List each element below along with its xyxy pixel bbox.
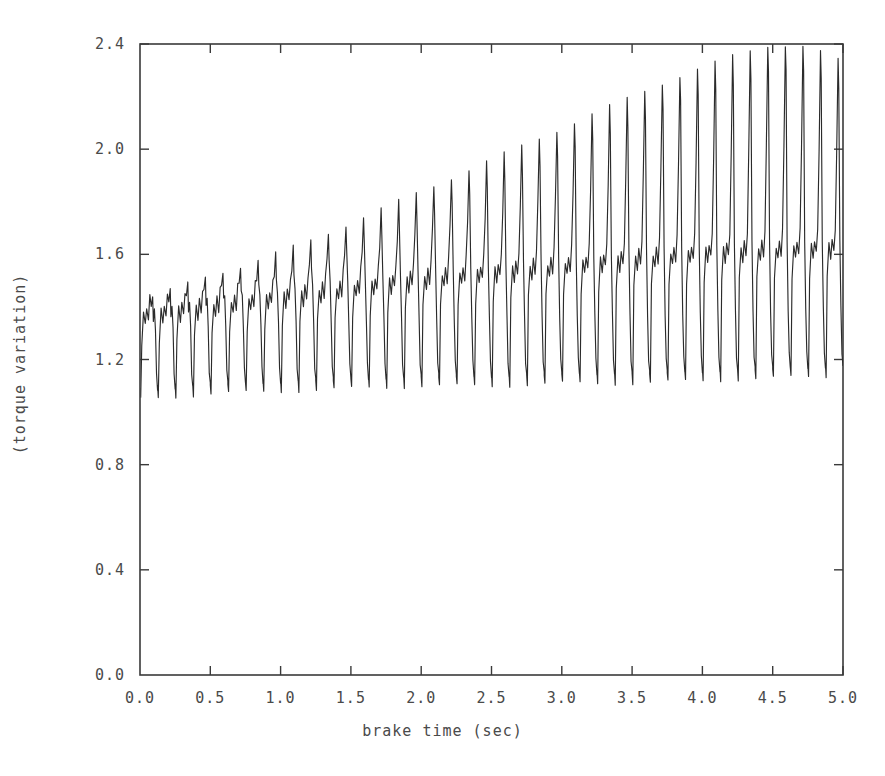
x-tick-label: 2.5 [476,689,506,707]
axis-ticks [140,44,843,675]
x-tick-label: 0.5 [195,689,225,707]
plot-frame [140,44,843,675]
plot-canvas [0,0,885,776]
y-tick-label: 2.4 [70,35,125,53]
chart-figure: 0.00.40.81.21.62.02.4 0.00.51.01.52.02.5… [0,0,885,776]
x-tick-label: 0.0 [125,689,155,707]
x-tick-label: 3.5 [617,689,647,707]
y-tick-label: 1.6 [70,245,125,263]
x-tick-label: 1.0 [266,689,296,707]
y-tick-label: 0.8 [70,456,125,474]
x-tick-label: 4.0 [687,689,717,707]
data-series-line [140,46,843,398]
x-tick-label: 3.0 [547,689,577,707]
x-tick-label: 5.0 [828,689,858,707]
y-tick-label: 0.0 [70,666,125,684]
y-tick-label: 2.0 [70,140,125,158]
x-tick-label: 4.5 [758,689,788,707]
x-axis-label: brake time (sec) [0,722,885,740]
y-tick-label: 0.4 [70,561,125,579]
x-tick-label: 1.5 [336,689,366,707]
x-tick-label: 2.0 [406,689,436,707]
y-axis-label: (torque variation) [11,274,29,455]
y-tick-label: 1.2 [70,351,125,369]
